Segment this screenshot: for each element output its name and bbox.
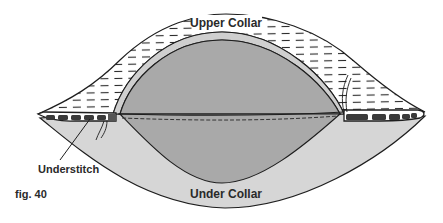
collar-diagram: Upper Collar Under Collar Understitch fi…	[0, 0, 443, 223]
upper-collar-label: Upper Collar	[190, 16, 262, 30]
under-collar-label: Under Collar	[190, 187, 262, 201]
figure-caption: fig. 40	[15, 188, 47, 200]
understitch-label: Understitch	[38, 163, 99, 175]
